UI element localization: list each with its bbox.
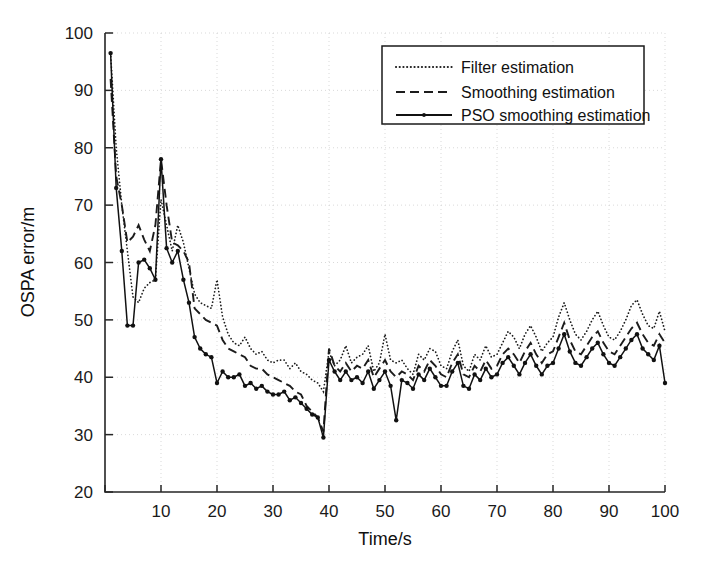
y-tick-label: 30 xyxy=(74,426,93,445)
series-marker-pso xyxy=(416,372,420,376)
series-marker-pso xyxy=(601,352,605,356)
series-marker-pso xyxy=(260,384,264,388)
series-marker-pso xyxy=(271,392,275,396)
series-marker-pso xyxy=(388,384,392,388)
series-marker-pso xyxy=(321,435,325,439)
series-marker-pso xyxy=(142,257,146,261)
series-marker-pso xyxy=(607,361,611,365)
x-tick-label: 90 xyxy=(600,502,619,521)
x-tick-label: 50 xyxy=(376,502,395,521)
series-marker-pso xyxy=(338,378,342,382)
x-tick-label: 30 xyxy=(264,502,283,521)
y-tick-label: 40 xyxy=(74,368,93,387)
series-marker-pso xyxy=(181,278,185,282)
ospa-error-line-chart: 102030405060708090100 203040506070809010… xyxy=(0,0,714,573)
series-marker-pso xyxy=(304,407,308,411)
series-marker-pso xyxy=(243,384,247,388)
series-marker-pso xyxy=(226,375,230,379)
series-marker-pso xyxy=(422,378,426,382)
legend-label-filter-estimation: Filter estimation xyxy=(461,59,574,76)
series-marker-pso xyxy=(450,369,454,373)
series-marker-pso xyxy=(467,387,471,391)
series-marker-pso xyxy=(624,346,628,350)
series-marker-pso xyxy=(394,418,398,422)
series-marker-pso xyxy=(276,392,280,396)
series-marker-pso xyxy=(540,372,544,376)
series-marker-pso xyxy=(478,378,482,382)
y-tick-label: 70 xyxy=(74,196,93,215)
series-marker-pso xyxy=(545,364,549,368)
series-marker-pso xyxy=(192,335,196,339)
series-marker-pso xyxy=(288,398,292,402)
legend-label-pso-smoothing-estimation: PSO smoothing estimation xyxy=(461,107,650,124)
x-tick-label: 70 xyxy=(488,502,507,521)
series-marker-pso xyxy=(215,381,219,385)
series-marker-pso xyxy=(377,378,381,382)
series-marker-pso xyxy=(159,157,163,161)
series-marker-pso xyxy=(310,412,314,416)
series-marker-pso xyxy=(472,372,476,376)
series-marker-pso xyxy=(265,389,269,393)
legend[interactable]: Filter estimation Smoothing estimation P… xyxy=(382,46,650,124)
series-marker-pso xyxy=(590,346,594,350)
series-marker-pso xyxy=(584,355,588,359)
series-marker-pso xyxy=(136,260,140,264)
series-marker-pso xyxy=(506,355,510,359)
series-marker-pso xyxy=(220,369,224,373)
series-marker-pso xyxy=(534,364,538,368)
series-marker-pso xyxy=(108,51,112,55)
series-marker-pso xyxy=(187,300,191,304)
series-marker-pso xyxy=(254,387,258,391)
series-marker-pso xyxy=(517,372,521,376)
x-tick-label: 40 xyxy=(320,502,339,521)
x-tick-label: 80 xyxy=(544,502,563,521)
series-marker-pso xyxy=(523,361,527,365)
series-marker-pso xyxy=(612,364,616,368)
series-marker-pso xyxy=(405,381,409,385)
x-tick-label: 10 xyxy=(152,502,171,521)
series-marker-pso xyxy=(198,346,202,350)
series-marker-pso xyxy=(562,332,566,336)
series-marker-pso xyxy=(428,366,432,370)
series-marker-pso xyxy=(556,346,560,350)
series-marker-pso xyxy=(366,369,370,373)
series-marker-pso xyxy=(579,364,583,368)
y-tick-label: 20 xyxy=(74,483,93,502)
series-marker-pso xyxy=(635,332,639,336)
series-marker-pso xyxy=(596,341,600,345)
series-marker-pso xyxy=(316,415,320,419)
series-marker-pso xyxy=(248,381,252,385)
series-marker-pso xyxy=(411,387,415,391)
x-axis-title: Time/s xyxy=(358,529,411,549)
series-marker-pso xyxy=(551,361,555,365)
y-tick-label: 60 xyxy=(74,254,93,273)
series-marker-pso xyxy=(439,384,443,388)
series-marker-pso xyxy=(327,358,331,362)
series-marker-pso xyxy=(237,372,241,376)
series-marker-pso xyxy=(282,389,286,393)
x-tick-label: 100 xyxy=(651,502,679,521)
series-marker-pso xyxy=(400,378,404,382)
y-tick-label: 100 xyxy=(65,24,93,43)
series-marker-pso xyxy=(657,343,661,347)
series-marker-pso xyxy=(489,375,493,379)
series-marker-pso xyxy=(125,323,129,327)
series-marker-pso xyxy=(629,338,633,342)
legend-swatch-marker-icon xyxy=(422,113,426,117)
y-axis-title: OSPA error/m xyxy=(18,207,38,318)
series-marker-pso xyxy=(528,352,532,356)
series-marker-pso xyxy=(299,401,303,405)
series-marker-pso xyxy=(456,361,460,365)
series-marker-pso xyxy=(164,246,168,250)
x-tick-label: 60 xyxy=(432,502,451,521)
series-marker-pso xyxy=(372,387,376,391)
series-marker-pso xyxy=(663,381,667,385)
series-marker-pso xyxy=(232,375,236,379)
series-marker-pso xyxy=(500,361,504,365)
y-tick-label: 50 xyxy=(74,311,93,330)
series-marker-pso xyxy=(512,364,516,368)
series-marker-pso xyxy=(383,369,387,373)
series-marker-pso xyxy=(646,352,650,356)
legend-label-smoothing-estimation: Smoothing estimation xyxy=(461,84,615,101)
series-marker-pso xyxy=(209,355,213,359)
